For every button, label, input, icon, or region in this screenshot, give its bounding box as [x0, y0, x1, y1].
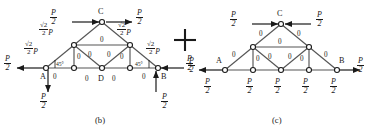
- joint-bottom-2: [72, 66, 77, 71]
- caption-panel-c: (c): [272, 115, 282, 125]
- frac-denominator: 2: [274, 87, 281, 95]
- frac-denominator: 2: [330, 87, 337, 95]
- angle-label-A: 45°: [56, 61, 64, 67]
- load-label-B-horizontal-c: P2: [357, 57, 364, 76]
- joint-D: [100, 66, 105, 71]
- load-label-top-right-b: P2: [136, 9, 143, 28]
- frac-denominator: 2: [316, 20, 323, 28]
- angle-label-B: 45°: [135, 61, 143, 67]
- frac-denominator: 2: [188, 66, 195, 74]
- member-left-rafter-lower: [225, 47, 253, 70]
- member-force-zero: 0: [142, 73, 146, 81]
- frac-denominator: 2: [302, 87, 309, 95]
- frac-denominator: 2: [4, 64, 11, 72]
- joint-upper-right: [307, 45, 312, 50]
- member-force-zero: 0: [53, 73, 57, 81]
- member-force-zero: 0: [77, 53, 81, 61]
- member-left-rafter-upper: [253, 24, 281, 47]
- joint-upper-right: [128, 43, 133, 48]
- member-force-zero: 0: [112, 75, 116, 83]
- joint-B: [335, 68, 340, 73]
- frac-denominator: 2: [161, 102, 168, 110]
- frac-denominator: 2: [40, 102, 47, 110]
- member-force-zero: 0: [324, 51, 328, 59]
- load-label-top-left-c: P2: [230, 11, 237, 30]
- frac-denominator: 2: [39, 30, 48, 37]
- force-unit: P: [155, 47, 160, 56]
- member-force-zero: 0: [268, 53, 272, 61]
- load-label-bottom-node-1-c: P2: [246, 78, 253, 97]
- member-force-zero: 0: [297, 30, 301, 38]
- label-node-D-b: D: [98, 74, 104, 83]
- joint-bottom-4: [128, 66, 133, 71]
- force-unit: P: [33, 47, 38, 56]
- label-node-C-c: C: [277, 9, 283, 18]
- frac-denominator: 2: [146, 49, 155, 56]
- joint-bottom-3: [279, 68, 284, 73]
- load-label-A-horizontal-b: P2: [4, 55, 11, 74]
- member-left-rafter-upper: [74, 22, 102, 45]
- label-node-B-b: B: [161, 72, 167, 81]
- member-force-zero: 0: [256, 55, 260, 63]
- frac-denominator: 2: [136, 18, 143, 26]
- diagonal-force-label-upper-left: √22P: [39, 21, 53, 39]
- panel-c-members: [225, 24, 337, 70]
- frac-denominator: 2: [230, 20, 237, 28]
- diagonal-force-label-lower-left: √22P: [24, 40, 38, 58]
- label-node-B-c: B: [339, 56, 345, 65]
- joint-bottom-2: [251, 68, 256, 73]
- load-label-bottom-node-3-c: P2: [302, 78, 309, 97]
- panel-c: A B C 0 0 0 0 0 0 0 0 0: [199, 9, 360, 73]
- frac-denominator: 2: [246, 87, 253, 95]
- force-unit: P: [126, 28, 131, 37]
- load-label-bottom-A-c: P2: [204, 78, 211, 97]
- diagonal-force-label-upper-right: √22P: [117, 21, 131, 39]
- force-unit: P: [48, 28, 53, 37]
- joint-B: [156, 66, 161, 71]
- member-force-zero: 0: [232, 51, 236, 59]
- member-force-zero: 0: [259, 30, 263, 38]
- label-node-C-b: C: [98, 7, 104, 16]
- joint-upper-left: [251, 45, 256, 50]
- diagonal-force-label-lower-right: √22P: [146, 40, 160, 58]
- frac-denominator: 2: [117, 30, 126, 37]
- load-label-bottom-node-2-c: P2: [274, 78, 281, 97]
- joint-upper-left: [72, 43, 77, 48]
- member-force-zero: 0: [278, 38, 282, 46]
- member-right-rafter-upper: [281, 24, 309, 47]
- frac-denominator: 2: [357, 66, 364, 74]
- joint-C: [279, 22, 284, 27]
- load-label-A-horizontal-c: P2: [188, 57, 195, 76]
- plus-operator: [174, 29, 196, 51]
- label-node-A-b: A: [40, 72, 46, 81]
- load-label-A-vertical-b: P2: [40, 93, 47, 112]
- joint-A: [44, 66, 49, 71]
- load-label-bottom-node-4-c: P2: [330, 78, 337, 97]
- label-node-A-c: A: [216, 56, 222, 65]
- load-label-top-right-c: P2: [316, 11, 323, 30]
- member-force-zero: 0: [300, 55, 304, 63]
- member-force-zero: 0: [88, 51, 92, 59]
- joint-C: [100, 20, 105, 25]
- member-force-zero: 0: [288, 53, 292, 61]
- joint-bottom-4: [307, 68, 312, 73]
- caption-panel-b: (b): [95, 115, 105, 125]
- frac-denominator: 2: [24, 49, 33, 56]
- member-right-rafter-lower: [309, 47, 337, 70]
- member-force-zero: 0: [107, 51, 111, 59]
- member-force-zero: 0: [85, 75, 89, 83]
- load-label-B-vertical-b: P2: [161, 93, 168, 112]
- member-force-zero: 0: [120, 53, 124, 61]
- frac-denominator: 2: [204, 87, 211, 95]
- member-force-zero: 0: [100, 36, 104, 44]
- member-right-diagonal-inner: [281, 47, 309, 70]
- joint-A: [223, 68, 228, 73]
